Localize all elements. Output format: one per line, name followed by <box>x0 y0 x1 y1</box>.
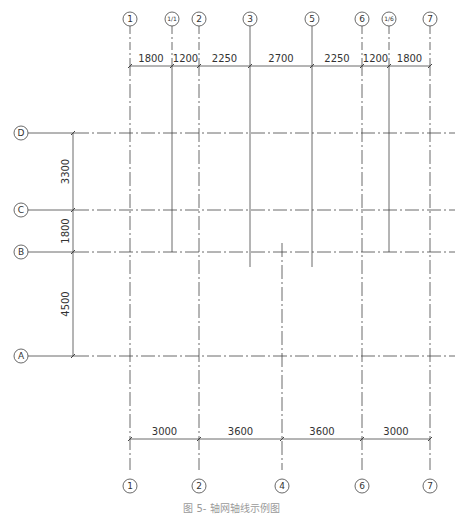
axis-D-label: D <box>18 128 25 138</box>
axis-top-5-label: 5 <box>309 14 315 24</box>
axis-bottom-4-label: 4 <box>279 481 285 491</box>
axis-bottom-1-label: 1 <box>127 481 133 491</box>
axis-B-label: B <box>18 247 24 257</box>
axis-top-2-label: 2 <box>196 14 202 24</box>
top-dimension-value: 1200 <box>173 53 198 64</box>
axis-bottom-6-label: 6 <box>359 481 365 491</box>
axis-C-label: C <box>18 205 24 215</box>
axis-top-1-label: 1 <box>127 14 133 24</box>
top-dimension-value: 1800 <box>138 53 163 64</box>
bottom-dimension-value: 3600 <box>228 426 253 437</box>
bottom-dimension-value: 3000 <box>383 426 408 437</box>
axis-A-label: A <box>18 351 25 361</box>
axis-top-1/1-label: 1/1 <box>167 15 177 22</box>
left-dimension-value: 3300 <box>60 159 71 184</box>
top-dimension-value: 2250 <box>212 53 237 64</box>
top-dimension-value: 2700 <box>268 53 293 64</box>
left-dimension-value: 1800 <box>60 218 71 243</box>
axis-top-6-label: 6 <box>359 14 365 24</box>
axis-top-7-label: 7 <box>427 14 433 24</box>
left-dimension-value: 4500 <box>60 291 71 316</box>
top-dimension-value: 2250 <box>324 53 349 64</box>
axis-bottom-2-label: 2 <box>196 481 202 491</box>
axis-top-3-label: 3 <box>247 14 253 24</box>
bottom-dimension-value: 3000 <box>152 426 177 437</box>
top-dimension-value: 1800 <box>397 53 422 64</box>
axis-bottom-7-label: 7 <box>427 481 433 491</box>
axis-top-1/6-label: 1/6 <box>384 15 394 22</box>
top-dimension-value: 1200 <box>363 53 388 64</box>
figure-caption: 图 5- 轴网轴线示例图 <box>0 503 463 515</box>
bottom-dimension-value: 3600 <box>309 426 334 437</box>
